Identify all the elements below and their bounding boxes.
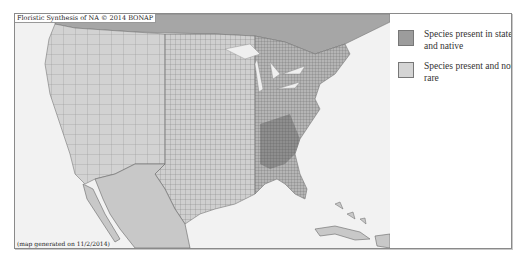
hispaniola: [375, 234, 390, 248]
map-legend: Species present in state and native Spec…: [398, 28, 510, 92]
legend-item-native: Species present in state and native: [398, 28, 510, 60]
us-central-region: [155, 34, 255, 224]
cuba: [315, 226, 370, 240]
map-frame: Floristic Synthesis of NA © 2014 BONAP (…: [14, 13, 512, 249]
bahamas: [335, 202, 366, 224]
map-graphic: [15, 14, 390, 248]
legend-swatch-native: [398, 30, 414, 46]
map-title: Floristic Synthesis of NA © 2014 BONAP: [15, 14, 156, 23]
legend-label-native: Species present in state and native: [424, 28, 512, 52]
legend-label-not-rare: Species present and not rare: [424, 60, 512, 84]
us-west-region: [45, 24, 165, 184]
distribution-map: Floristic Synthesis of NA © 2014 BONAP (…: [15, 14, 390, 248]
legend-item-not-rare: Species present and not rare: [398, 60, 510, 92]
legend-swatch-not-rare: [398, 62, 414, 78]
us-east-region: [255, 36, 350, 199]
map-generated-date: (map generated on 11/2/2014): [15, 240, 112, 248]
